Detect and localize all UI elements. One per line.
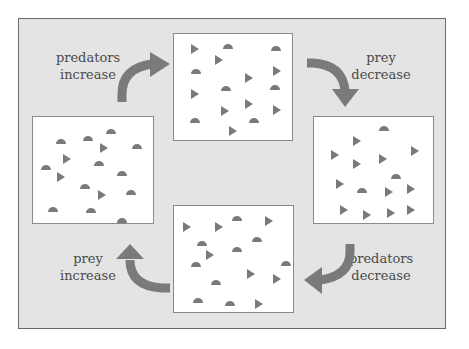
curved-arrow-down-left-icon: [302, 242, 362, 297]
prey-triangle-icon: [183, 222, 191, 232]
predator-semicircle-icon: [126, 190, 136, 195]
predator-semicircle-icon: [48, 207, 58, 212]
predator-semicircle-icon: [357, 188, 367, 193]
predator-semicircle-icon: [80, 184, 90, 189]
prey-triangle-icon: [353, 159, 361, 169]
prey-triangle-icon: [245, 73, 253, 83]
prey-triangle-icon: [265, 216, 273, 226]
predator-semicircle-icon: [86, 208, 96, 213]
prey-triangle-icon: [353, 136, 361, 146]
predator-semicircle-icon: [223, 44, 233, 49]
predator-semicircle-icon: [271, 46, 281, 51]
panel-bottom-shapes: [174, 206, 295, 314]
predator-semicircle-icon: [379, 126, 389, 131]
prey-triangle-icon: [379, 154, 387, 164]
curved-arrow-right-down-icon: [305, 55, 365, 110]
predator-semicircle-icon: [117, 218, 127, 223]
predator-semicircle-icon: [281, 261, 291, 266]
prey-triangle-icon: [100, 143, 108, 153]
predator-semicircle-icon: [94, 161, 104, 166]
prey-triangle-icon: [98, 190, 106, 200]
prey-triangle-icon: [273, 274, 281, 284]
prey-triangle-icon: [363, 210, 371, 220]
curved-arrow-up-right-icon: [112, 50, 172, 105]
prey-triangle-icon: [215, 222, 223, 232]
predator-semicircle-icon: [41, 165, 51, 170]
predator-semicircle-icon: [249, 118, 259, 123]
prey-triangle-icon: [340, 205, 348, 215]
prey-triangle-icon: [215, 55, 223, 65]
prey-triangle-icon: [221, 106, 229, 116]
prey-triangle-icon: [206, 250, 214, 260]
prey-triangle-icon: [191, 44, 199, 54]
panel-bottom: [173, 205, 294, 313]
predator-semicircle-icon: [191, 262, 201, 267]
curved-arrow-left-up-icon: [112, 242, 172, 297]
panel-top-shapes: [174, 34, 294, 142]
predator-semicircle-icon: [232, 247, 242, 252]
predator-semicircle-icon: [132, 144, 142, 149]
predator-semicircle-icon: [225, 301, 235, 306]
panel-left-shapes: [33, 117, 155, 225]
prey-triangle-icon: [63, 154, 71, 164]
predator-semicircle-icon: [232, 216, 242, 221]
predator-semicircle-icon: [106, 129, 116, 134]
prey-triangle-icon: [255, 299, 263, 309]
predator-semicircle-icon: [391, 174, 401, 179]
predator-semicircle-icon: [270, 85, 280, 90]
panel-right-shapes: [314, 117, 435, 225]
predator-semicircle-icon: [190, 118, 200, 123]
prey-triangle-icon: [331, 150, 339, 160]
prey-triangle-icon: [57, 172, 65, 182]
prey-triangle-icon: [245, 99, 253, 109]
predator-semicircle-icon: [117, 171, 127, 176]
prey-triangle-icon: [229, 126, 237, 136]
prey-triangle-icon: [387, 208, 395, 218]
predator-semicircle-icon: [197, 241, 207, 246]
prey-triangle-icon: [273, 105, 281, 115]
predator-semicircle-icon: [56, 139, 66, 144]
panel-right: [313, 116, 434, 224]
prey-triangle-icon: [273, 66, 281, 76]
predator-semicircle-icon: [221, 86, 231, 91]
prey-triangle-icon: [407, 184, 415, 194]
prey-triangle-icon: [336, 179, 344, 189]
prey-triangle-icon: [385, 187, 393, 197]
panel-top: [173, 33, 293, 141]
prey-triangle-icon: [247, 269, 255, 279]
prey-triangle-icon: [407, 205, 415, 215]
predator-semicircle-icon: [211, 280, 221, 285]
prey-triangle-icon: [191, 89, 199, 99]
panel-left: [32, 116, 154, 224]
predator-semicircle-icon: [83, 136, 93, 141]
predator-semicircle-icon: [191, 69, 201, 74]
predator-semicircle-icon: [193, 298, 203, 303]
prey-triangle-icon: [411, 146, 419, 156]
predator-semicircle-icon: [252, 237, 262, 242]
